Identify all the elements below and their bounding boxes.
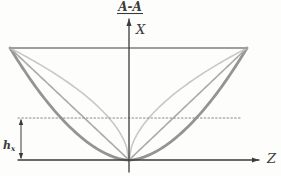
dimension-label-base: h: [3, 139, 11, 152]
axes-layer: [18, 19, 259, 172]
z-axis-label: Z: [266, 151, 277, 166]
x-axis-arrowhead: [126, 19, 131, 26]
x-axis-label: X: [135, 22, 146, 37]
dimension-arrowhead-up: [19, 119, 23, 125]
dimension-label: hx: [3, 139, 16, 153]
dimension-arrowhead-down: [19, 153, 23, 159]
section-title: A-A: [117, 0, 142, 14]
diagram-canvas: A-A X Z hx: [0, 0, 281, 176]
cross-section-diagram: A-A X Z hx: [0, 0, 281, 176]
dimension-label-subscript: x: [10, 144, 16, 153]
straight-profile-right: [129, 48, 247, 160]
z-axis-arrowhead: [252, 157, 259, 162]
straight-profile-left: [10, 48, 129, 160]
